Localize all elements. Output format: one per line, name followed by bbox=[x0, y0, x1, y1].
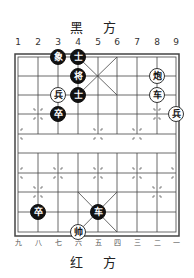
file-label: 四 bbox=[110, 237, 124, 247]
file-label: 八 bbox=[31, 237, 45, 247]
file-label: 九 bbox=[11, 237, 25, 247]
black-piece[interactable]: 将 bbox=[70, 68, 86, 84]
black-piece[interactable]: 车 bbox=[90, 204, 106, 220]
file-label: 五 bbox=[91, 237, 105, 247]
file-label: 一 bbox=[169, 237, 183, 247]
file-label: 三 bbox=[130, 237, 144, 247]
red-side-title: 红 方 bbox=[0, 252, 194, 271]
red-piece[interactable]: 车 bbox=[149, 87, 165, 103]
bottom-file-labels: 九 八 七 六 五 四 三 二 一 bbox=[0, 237, 194, 249]
black-piece[interactable]: 卒 bbox=[50, 106, 66, 122]
black-piece[interactable]: 象 bbox=[50, 49, 66, 65]
black-piece[interactable]: 卒 bbox=[30, 204, 46, 220]
red-piece[interactable]: 兵 bbox=[50, 87, 66, 103]
black-piece[interactable]: 士 bbox=[70, 49, 86, 65]
red-piece[interactable]: 炮 bbox=[149, 68, 165, 84]
red-piece[interactable]: 兵 bbox=[168, 106, 184, 122]
file-label: 二 bbox=[150, 237, 164, 247]
file-label: 七 bbox=[51, 237, 65, 247]
file-label: 六 bbox=[71, 237, 85, 247]
black-piece[interactable]: 士 bbox=[70, 87, 86, 103]
